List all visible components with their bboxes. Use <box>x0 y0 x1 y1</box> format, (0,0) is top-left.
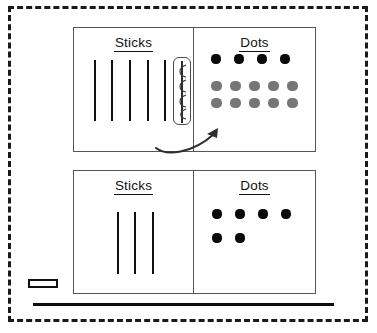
sticks-heading-top: Sticks <box>74 35 193 50</box>
dots-column-top: Dots <box>194 28 315 151</box>
stick <box>111 60 113 121</box>
stick <box>94 60 96 121</box>
dot-gray <box>230 81 241 91</box>
dot-gray <box>211 81 222 91</box>
dot-row <box>194 98 315 114</box>
small-rectangle-marker <box>28 279 58 288</box>
sticks-column-top: Sticks <box>74 28 194 151</box>
dot-row <box>194 54 315 70</box>
dot-black <box>212 233 222 243</box>
sticks-heading-bottom: Sticks <box>74 178 193 193</box>
dot-gray <box>230 98 241 108</box>
dot-black <box>234 54 244 64</box>
dot-black <box>258 209 268 219</box>
dots-heading-top: Dots <box>194 35 315 50</box>
dot-black <box>211 54 221 64</box>
dot-gray <box>211 98 222 108</box>
dot-black <box>235 209 245 219</box>
dot-black <box>281 209 291 219</box>
sticks-group-top <box>74 57 193 147</box>
stick <box>152 212 154 274</box>
after-regrouping-chart: Sticks Dots <box>73 170 316 294</box>
stick <box>117 212 119 274</box>
dot-gray <box>287 81 298 91</box>
stick <box>134 212 136 274</box>
dot-black <box>212 209 222 219</box>
dot-gray <box>268 98 279 108</box>
dots-group-bottom <box>194 197 315 292</box>
dots-heading-bottom: Dots <box>194 178 315 193</box>
dot-black <box>235 233 245 243</box>
dot-black <box>257 54 267 64</box>
regroup-squiggle-icon <box>174 58 192 126</box>
dot-row <box>194 233 315 249</box>
stick <box>164 60 166 121</box>
worksheet-page: Sticks <box>0 0 377 333</box>
dot-black <box>280 54 290 64</box>
dot-row <box>194 209 315 225</box>
dots-column-bottom: Dots <box>194 171 315 293</box>
dot-gray <box>287 98 298 108</box>
dot-row <box>194 81 315 97</box>
sticks-group-bottom <box>74 200 193 290</box>
bundled-stick-circled <box>173 57 191 125</box>
dots-group-top <box>194 54 315 149</box>
before-regrouping-chart: Sticks <box>73 27 316 152</box>
sticks-column-bottom: Sticks <box>74 171 194 293</box>
stick <box>147 60 149 121</box>
dot-gray <box>249 98 260 108</box>
dot-gray <box>268 81 279 91</box>
stick <box>129 60 131 121</box>
horizontal-rule <box>33 303 334 306</box>
dot-gray <box>249 81 260 91</box>
